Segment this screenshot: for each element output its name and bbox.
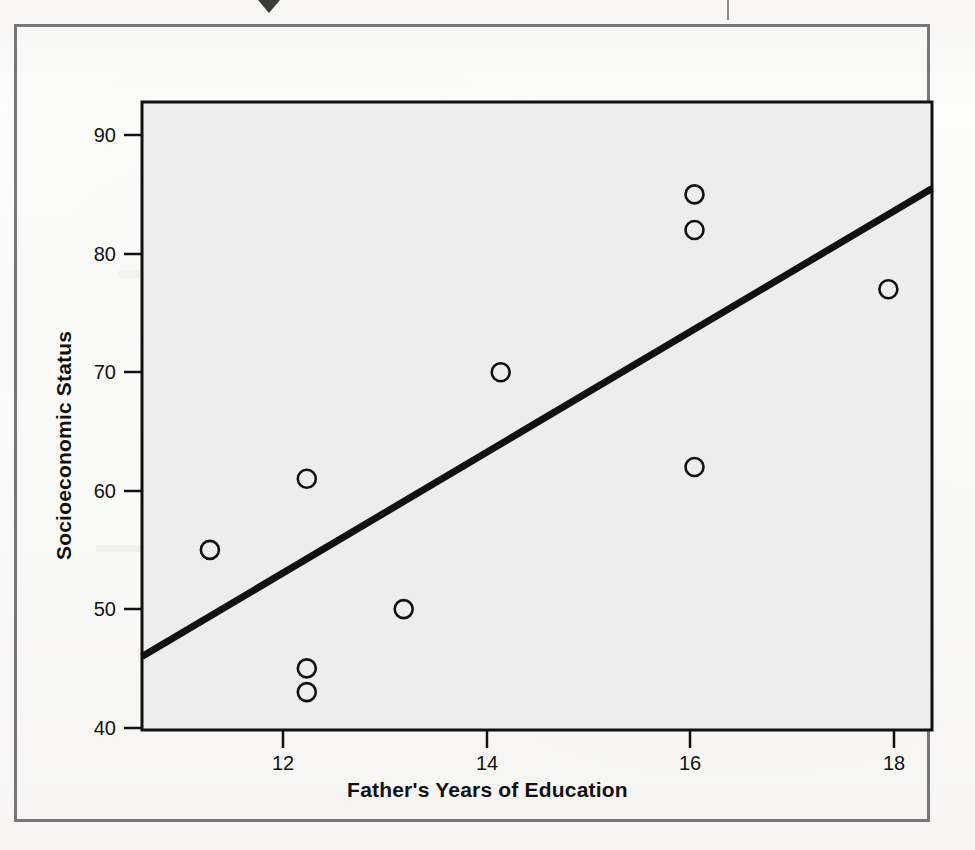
y-tick-label-40: 40 bbox=[70, 717, 116, 740]
plot-area-background bbox=[142, 102, 932, 730]
y-axis-ticks bbox=[124, 135, 142, 728]
y-tick-label-50: 50 bbox=[70, 598, 116, 621]
y-tick-label-60: 60 bbox=[70, 480, 116, 503]
x-axis-ticks bbox=[283, 730, 894, 748]
x-axis-title: Father's Years of Education bbox=[0, 778, 975, 802]
x-tick-label-12: 12 bbox=[260, 752, 306, 775]
x-tick-label-18: 18 bbox=[871, 752, 917, 775]
y-tick-label-70: 70 bbox=[70, 361, 116, 384]
y-tick-label-90: 90 bbox=[70, 124, 116, 147]
plot-canvas bbox=[0, 0, 975, 850]
scatter-plot-figure: 90 80 70 60 50 40 12 14 16 18 Socioecono… bbox=[0, 0, 975, 850]
y-axis-title: Socioeconomic Status bbox=[52, 331, 76, 560]
x-tick-label-16: 16 bbox=[667, 752, 713, 775]
x-tick-label-14: 14 bbox=[464, 752, 510, 775]
y-tick-label-80: 80 bbox=[70, 243, 116, 266]
